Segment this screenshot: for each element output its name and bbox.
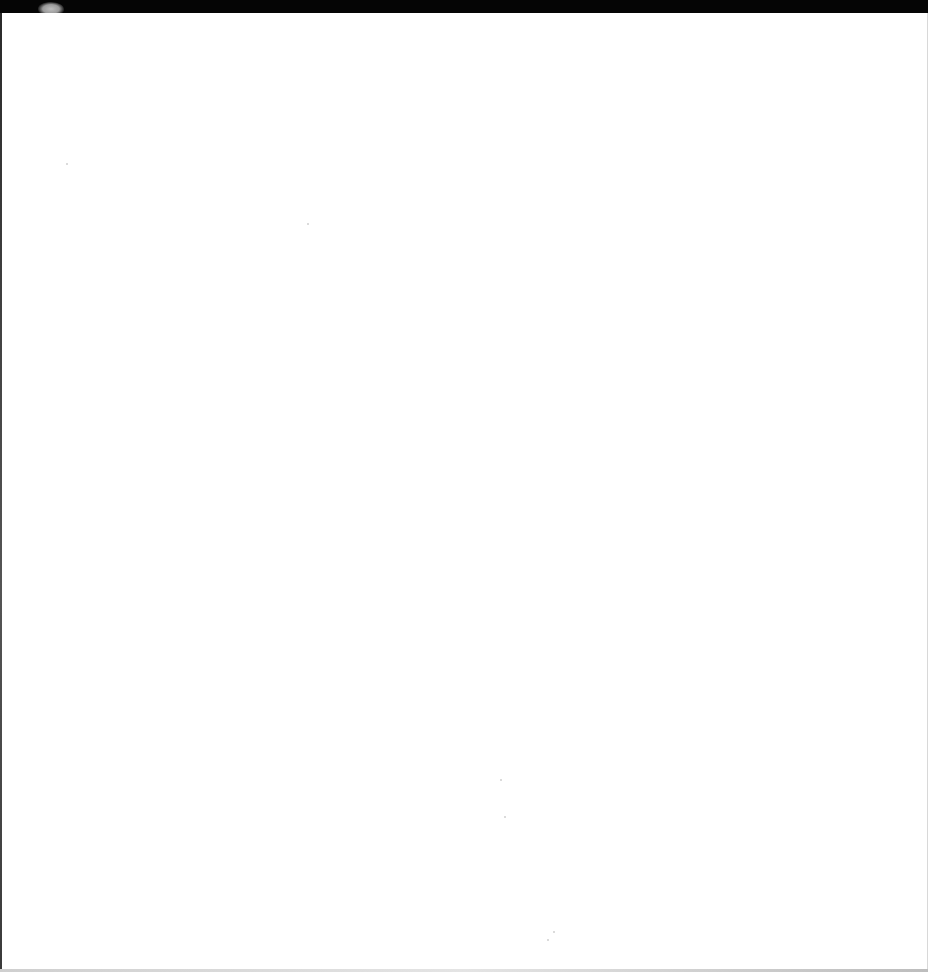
scan-speck — [307, 223, 309, 225]
scan-speck — [504, 816, 506, 818]
scan-speck — [553, 931, 555, 933]
scan-speck — [547, 939, 549, 941]
scan-speck — [500, 779, 502, 781]
scan-left-border — [0, 13, 2, 972]
scan-speck — [66, 163, 68, 165]
blank-page — [2, 13, 927, 969]
scan-top-border — [0, 0, 928, 13]
